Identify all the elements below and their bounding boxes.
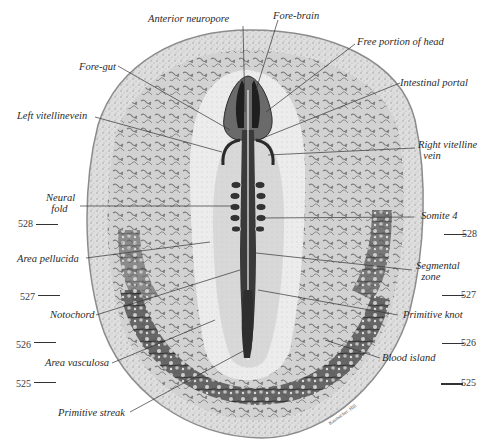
label-free-portion-of-head: Free portion of head <box>357 36 444 47</box>
label-fore-gut: Fore-gut <box>79 61 116 72</box>
scale-right-528: 528 <box>462 229 477 239</box>
label-area-vasculosa: Area vasculosa <box>45 357 109 368</box>
label-neural-fold: Neural fold <box>46 192 75 214</box>
label-blood-island: Blood island <box>382 352 435 363</box>
scale-tick <box>38 295 60 296</box>
scale-left-526: 526 <box>16 340 31 350</box>
label-segmental-zone: Segmental zone <box>416 260 460 282</box>
label-primitive-knot: Primitive knot <box>403 309 463 320</box>
label-fore-brain: Fore-brain <box>273 10 319 21</box>
label-primitive-streak: Primitive streak <box>58 407 125 418</box>
scale-right-527: 527 <box>461 290 476 300</box>
scale-right-526: 526 <box>461 338 476 348</box>
scale-left-525: 525 <box>16 379 31 389</box>
scale-tick <box>34 382 56 383</box>
label-somite-4: Somite 4 <box>421 210 457 221</box>
scale-tick <box>36 224 58 225</box>
label-left-vitelline-vein: Left vitellinevein <box>17 110 87 121</box>
label-right-vitelline-vein: Right vitelline vein <box>418 139 477 161</box>
scale-tick <box>34 342 56 343</box>
scale-right-525: 525 <box>461 378 476 388</box>
label-notochord: Notochord <box>50 309 95 320</box>
scale-left-527: 527 <box>20 292 35 302</box>
label-intestinal-portal: Intestinal portal <box>400 77 468 88</box>
label-area-pellucida: Area pellucida <box>17 253 79 264</box>
scale-left-528: 528 <box>18 219 33 229</box>
scale-tick <box>441 383 463 385</box>
embryo-diagram: Kasmacher. Hill <box>0 0 494 448</box>
label-anterior-neuropore: Anterior neuropore <box>148 13 229 24</box>
